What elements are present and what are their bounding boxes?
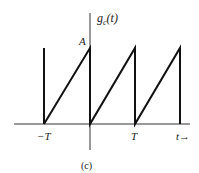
- figure-caption: (c): [81, 160, 92, 172]
- x-axis-label: t→: [176, 130, 190, 142]
- sawtooth-waveform: [44, 48, 180, 124]
- sawtooth-diagram: gc(t) A −T T t→ (c): [0, 0, 199, 173]
- tick-label-T: T: [131, 130, 138, 142]
- tick-label-neg-T: −T: [37, 130, 51, 142]
- y-axis-label: gc(t): [97, 11, 118, 27]
- amplitude-label: A: [78, 35, 86, 47]
